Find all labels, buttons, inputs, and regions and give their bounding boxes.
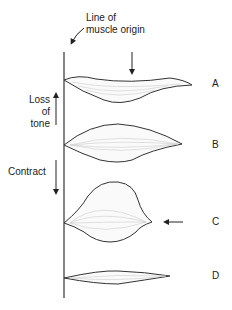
state-label-b: B <box>212 139 219 151</box>
tone-label: tone <box>22 118 50 130</box>
origin-label-line1: Line of <box>86 12 116 24</box>
contract-label: Contract <box>8 166 46 178</box>
state-label-c: C <box>212 216 219 228</box>
state-label-a: A <box>212 78 219 90</box>
muscle-a <box>64 52 192 103</box>
muscle-tone-diagram <box>0 0 232 310</box>
origin-pointer-arrow <box>72 28 84 42</box>
origin-label-line2: muscle origin <box>86 24 145 36</box>
muscle-b <box>64 124 182 162</box>
state-label-d: D <box>212 270 219 282</box>
loss-label: Loss <box>22 94 50 106</box>
muscle-c <box>64 182 183 242</box>
muscle-d <box>64 271 170 284</box>
of-label: of <box>22 106 50 118</box>
